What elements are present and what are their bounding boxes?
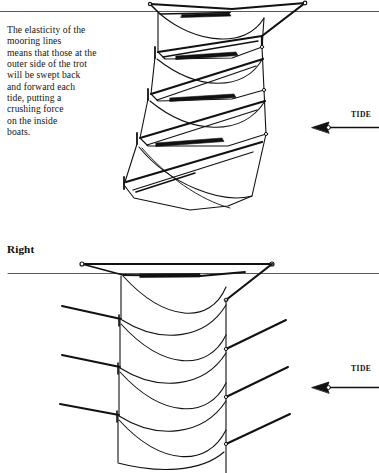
caption-line: crushing force <box>7 103 119 114</box>
mooring-line-b3 <box>60 404 119 415</box>
tide-label-bottom: TIDE <box>351 364 371 373</box>
boat-b2-deck-curve <box>121 324 226 361</box>
tide-label-top: TIDE <box>351 110 371 119</box>
trot-riser-right-b <box>226 264 272 300</box>
boat-b2-keel-curve <box>120 353 226 383</box>
boat-b3-keel-curve <box>119 401 226 431</box>
caption-line: The elasticity of the <box>7 24 119 35</box>
tide-arrow-bottom <box>312 382 379 393</box>
caption-line: outer side of the trot <box>7 58 119 69</box>
caption-line: boats. <box>7 126 119 137</box>
top-panel-caption: The elasticity of the mooring lines mean… <box>7 24 119 137</box>
mooring-line-b2 <box>62 355 120 367</box>
caption-line: and forward each <box>7 81 119 92</box>
mooring-line-b4r <box>226 414 290 444</box>
boat-b1-gunwale <box>140 274 200 278</box>
boat-b1-keel-curve <box>122 305 226 335</box>
mooring-line-b2r <box>226 320 286 349</box>
caption-line: on the inside <box>7 115 119 126</box>
bottom-panel-label: Right <box>7 243 34 255</box>
mooring-line-b3r <box>226 367 288 397</box>
boat-b3-deck-curve <box>120 372 226 409</box>
figure-page: The elasticity of the mooring lines mean… <box>0 0 379 473</box>
caption-line: mooring lines <box>7 35 119 46</box>
caption-line: tide, putting a <box>7 92 119 103</box>
caption-line: will be swept back <box>7 69 119 80</box>
boat-b1-deck-curve <box>123 276 226 313</box>
mooring-line-b1 <box>62 306 121 319</box>
boat-b4-deck-curve <box>119 420 226 457</box>
caption-line: means that those at the <box>7 47 119 58</box>
